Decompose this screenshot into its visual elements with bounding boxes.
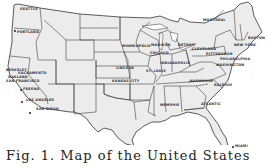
city-label-san-diego: SAN DIEGO (36, 108, 59, 111)
city-label-kansas-city: KANSAS CITY (112, 80, 140, 83)
city-marker-los-angeles (21, 101, 23, 103)
city-label-pittsburgh: PITTSBURGH (206, 53, 232, 56)
city-label-indianapolis: INDIANAPOLIS (160, 62, 190, 65)
city-label-montreal: MONTREAL (203, 19, 226, 22)
city-label-madison: MADISON (151, 44, 171, 47)
city-label-chicago: CHICAGO (150, 52, 169, 55)
city-label-memphis: MEMPHIS (160, 104, 180, 107)
city-label-washington: WASHINGTON (216, 64, 244, 67)
city-label-portland: PORTLAND (17, 31, 39, 34)
city-label-nashville: NASHVILLE (190, 80, 213, 83)
city-label-lincoln: LINCOLN (116, 67, 134, 70)
city-label-minneapolis: MINNEAPOLIS (122, 45, 151, 48)
city-label-philadelphia: PHILADELPHIA (220, 58, 250, 61)
city-label-seattle: SEATTLE (20, 8, 38, 11)
city-marker-san-diego (29, 112, 31, 114)
city-label-new-york: NEW YORK (234, 44, 256, 47)
city-label-san-francisco: SAN FRANCISCO (6, 80, 40, 83)
city-label-boston: BOSTON (248, 37, 265, 40)
figure-caption: Fig. 1. Map of the United States (6, 148, 266, 168)
city-marker-portland (14, 30, 16, 32)
city-label-atlantic: ATLANTIC (201, 103, 221, 106)
city-label-los-angeles: LOS ANGELES (26, 99, 54, 102)
city-label-raleigh: RALEIGH (214, 84, 232, 87)
city-marker-fresno (20, 89, 22, 91)
city-label-cleveland: CLEVELAND (192, 48, 216, 51)
city-label-st-louis: ST. LOUIS (146, 70, 166, 73)
city-label-fresno: FRESNO (23, 88, 40, 91)
